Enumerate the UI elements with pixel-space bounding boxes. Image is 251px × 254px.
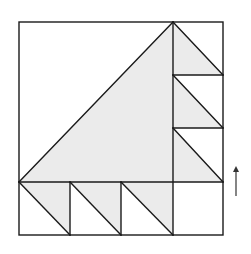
up-arrow-icon bbox=[233, 166, 239, 196]
quilt-block-diagram bbox=[0, 0, 251, 254]
arrow-head bbox=[233, 166, 239, 172]
